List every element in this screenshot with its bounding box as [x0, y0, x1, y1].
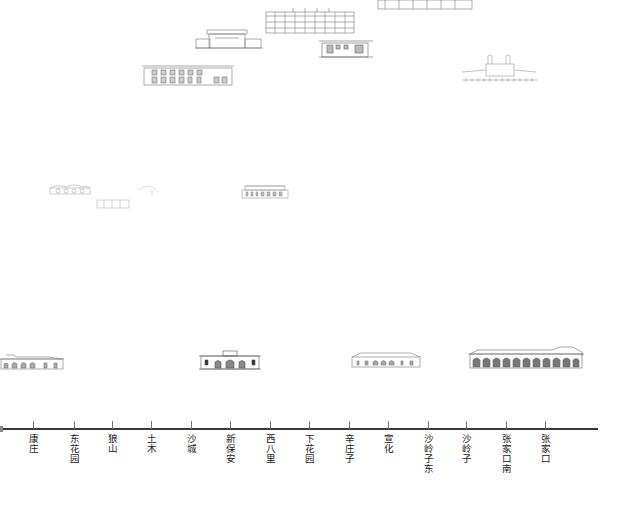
station-label: 新保安 [225, 434, 235, 464]
station-tick [428, 421, 429, 429]
station-label: 沙岭子东 [423, 434, 433, 474]
elevation-drawing-mid-arches [48, 183, 92, 195]
station-label: 土木 [146, 434, 156, 454]
elevation-drawing-top-pavilion [195, 28, 263, 50]
timeline-axis-start-cap [0, 426, 3, 432]
elevation-drawing-zhangjiakounan [468, 346, 584, 370]
station-xiahuayuan: 下花园 [299, 421, 319, 468]
station-tick [112, 421, 113, 429]
elevation-drawing-mid-centre [241, 184, 289, 200]
station-tick [191, 421, 192, 429]
station-kangzhuang: 康庄 [23, 421, 43, 458]
station-shacheng: 沙城 [181, 421, 201, 458]
station-label: 张家口 [540, 434, 550, 464]
station-xinzhuangzi: 辛庄子 [339, 421, 359, 468]
elevation-drawing-mid-small-box [96, 199, 130, 209]
station-xinbaoan: 新保安 [220, 421, 240, 468]
station-tumu: 土木 [141, 421, 161, 458]
station-label: 西八里 [265, 434, 275, 464]
station-tick [33, 421, 34, 429]
station-label: 康庄 [28, 434, 38, 454]
station-label: 下花园 [304, 434, 314, 464]
elevation-drawing-xinzhuangzi [351, 352, 421, 368]
station-tick [230, 421, 231, 429]
station-label: 狼山 [107, 434, 117, 454]
elevation-drawing-kangzhuang [0, 351, 64, 371]
station-langshan: 狼山 [102, 421, 122, 458]
elevation-drawing-top-long [142, 63, 234, 87]
elevation-drawing-top-center [265, 6, 355, 34]
station-shalingzi: 沙岭子 [456, 421, 476, 468]
station-label: 张家口南 [501, 434, 511, 474]
station-tick [388, 421, 389, 429]
station-label: 沙岭子 [461, 434, 471, 464]
elevation-drawing-mid-sketch [138, 184, 160, 196]
station-label: 辛庄子 [344, 434, 354, 464]
station-tick [309, 421, 310, 429]
station-donghuayuan: 东花园 [64, 421, 84, 468]
station-label: 东花园 [69, 434, 79, 464]
station-tick [545, 421, 546, 429]
station-shalingzidong: 沙岭子东 [418, 421, 438, 478]
station-tick [74, 421, 75, 429]
station-tick [349, 421, 350, 429]
station-tick [151, 421, 152, 429]
elevation-drawing-xinbaoan [199, 349, 261, 371]
diagram-canvas: 康庄 东花园 狼山 土木 沙城 新保安 西八里 下花园 辛庄子 宣化 沙岭子东 [0, 0, 632, 515]
station-label: 沙城 [186, 434, 196, 454]
station-tick [270, 421, 271, 429]
station-zhangjiakounan: 张家口南 [496, 421, 516, 478]
station-tick [506, 421, 507, 429]
station-xuanhua: 宣化 [378, 421, 398, 458]
elevation-drawing-top-right-box [319, 39, 373, 59]
elevation-drawing-top-far-right-bridge [462, 50, 538, 86]
station-xibali: 西八里 [260, 421, 280, 468]
elevation-drawing-top-far-right-strip [377, 0, 473, 12]
station-zhangjiakou: 张家口 [535, 421, 555, 468]
station-tick [466, 421, 467, 429]
station-label: 宣化 [383, 434, 393, 454]
